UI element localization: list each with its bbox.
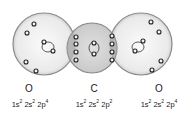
atom-label-oxygen-left: O <box>4 83 54 94</box>
electron-config-oxygen-right: 1s2 2s2 2p4 <box>129 98 183 109</box>
oxygen-atom-right <box>110 13 172 75</box>
electron-config-carbon: 1s2 2s2 2p2 <box>64 98 124 109</box>
atom-label-oxygen-right: O <box>134 83 183 94</box>
co2-diagram <box>0 0 183 90</box>
atom-label-carbon: C <box>69 83 119 94</box>
electron-config-oxygen-left: 1s2 2s2 2p4 <box>0 98 60 109</box>
